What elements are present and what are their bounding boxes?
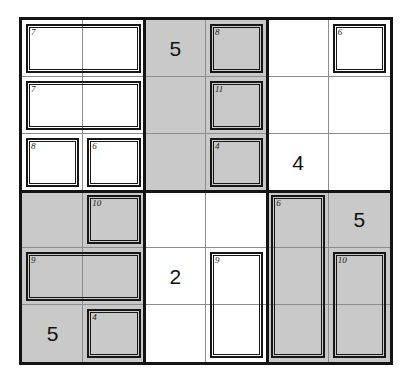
sudoku-cell-r1-c5[interactable] [267,20,328,77]
cell-value-r6-c1: 5 [22,323,83,344]
sudoku-cell-r6-c6[interactable] [329,305,390,362]
cage-sum-label: 10 [92,199,101,208]
cage-sum-label: 9 [215,256,220,265]
cage-sum-label: 4 [215,142,220,151]
cage-sum-label: 6 [276,199,281,208]
cage-sum-label: 8 [31,142,36,151]
cage-sum-label: 9 [31,256,36,265]
killer-sudoku-puzzle: 78671186410699104 54525 [0,0,413,381]
sudoku-cell-r4-c1[interactable] [22,191,83,248]
cell-value-r1-c3: 5 [145,38,206,59]
sudoku-cell-r2-c6[interactable] [329,77,390,134]
sudoku-cell-r4-c4[interactable] [206,191,267,248]
sudoku-cell-r6-c3[interactable] [145,305,206,362]
sudoku-cell-r1-c2[interactable] [83,20,144,77]
cage-sum-label: 6 [92,142,97,151]
cell-value-r3-c5: 4 [267,152,328,173]
cell-value-r4-c6: 5 [329,209,390,230]
cage-sum-label: 10 [338,256,347,265]
sudoku-cell-r6-c4[interactable] [206,305,267,362]
sudoku-cell-r3-c3[interactable] [145,134,206,191]
sudoku-cell-r2-c5[interactable] [267,77,328,134]
sudoku-board[interactable]: 78671186410699104 54525 [19,17,393,365]
cage-sum-label: 11 [215,85,223,94]
sudoku-cell-r6-c5[interactable] [267,305,328,362]
cage-sum-label: 6 [338,28,343,37]
sudoku-cell-r5-c5[interactable] [267,248,328,305]
sudoku-cell-r4-c3[interactable] [145,191,206,248]
block-separator-vertical [266,20,269,362]
block-separator-vertical [143,20,146,362]
cage-sum-label: 7 [31,85,36,94]
sudoku-cell-r3-c6[interactable] [329,134,390,191]
sudoku-cell-r2-c3[interactable] [145,77,206,134]
cage-sum-label: 7 [31,28,36,37]
cage-sum-label: 8 [215,28,220,37]
cell-value-r5-c3: 2 [145,266,206,287]
sudoku-cell-r2-c2[interactable] [83,77,144,134]
sudoku-cell-r5-c2[interactable] [83,248,144,305]
block-separator-horizontal [22,190,390,193]
cage-sum-label: 4 [92,313,97,322]
